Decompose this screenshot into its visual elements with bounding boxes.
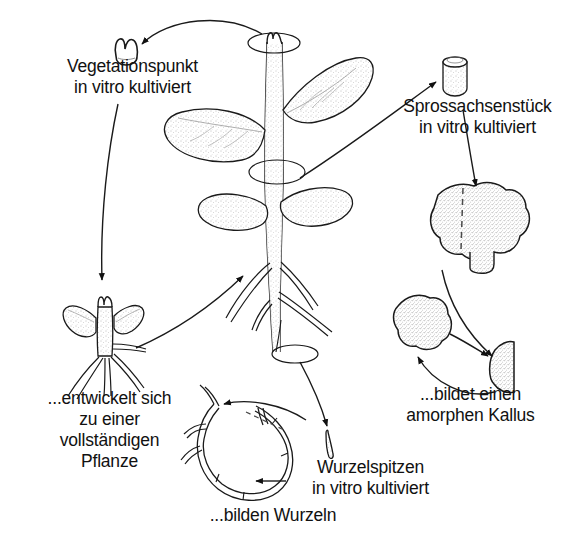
label-wurzeln: ...bilden Wurzeln [178, 505, 368, 526]
regenerated-plantlet [63, 297, 146, 399]
figure-canvas: Vegetationspunktin vitro kultiviert Spro… [0, 0, 575, 546]
label-kallus-line2: amorphen Kallus [406, 405, 534, 425]
label-sprossachsenstueck-line2: in vitro kultiviert [419, 117, 536, 137]
arrow-plantlet-to-plant [136, 276, 243, 348]
label-kallus-line1: ...bildet einen [420, 384, 521, 404]
label-wurzelspitzen-line1: Wurzelspitzen [317, 457, 424, 477]
leaf-lower-left [198, 194, 267, 230]
label-pflanze-line1: ...entwickelt sich [48, 388, 172, 408]
leaf-lower-right [280, 188, 352, 227]
leaf-upper-left [164, 109, 265, 162]
label-pflanze-line4: Pflanze [81, 451, 138, 471]
label-pflanze-line2: zu einer [79, 409, 140, 429]
plant-stem [265, 42, 284, 352]
label-wurzelspitzen: Wurzelspitzenin vitro kultiviert [278, 457, 463, 499]
label-sprossachsenstueck: Sprossachsenstückin vitro kultiviert [385, 96, 570, 138]
label-vegetationspunkt-line2: in vitro kultiviert [74, 77, 191, 97]
callus-large [431, 183, 530, 274]
label-wurzelspitzen-line2: in vitro kultiviert [312, 478, 429, 498]
label-vegetationspunkt: Vegetationspunktin vitro kultiviert [40, 56, 225, 98]
excision-ellipse-root [272, 345, 318, 363]
arrow-roottip-to-explant [300, 362, 327, 426]
label-vegetationspunkt-line1: Vegetationspunkt [67, 56, 198, 76]
explant-stem-cylinder [443, 57, 467, 96]
leaf-upper-right [283, 58, 373, 123]
shoot-apex-tip [267, 33, 282, 44]
label-sprossachsenstueck-line1: Sprossachsenstück [403, 96, 551, 116]
arrow-apexlabel-to-plantlet [102, 104, 118, 280]
arrow-callus2-to-fragment [450, 334, 488, 356]
arrow-apex-to-explant [142, 21, 262, 44]
callus-second [394, 295, 452, 349]
label-pflanze: ...entwickelt sichzu einervollständigenP… [22, 388, 197, 472]
label-wurzeln-line1: ...bilden Wurzeln [210, 505, 337, 525]
label-kallus: ...bildet einenamorphen Kallus [378, 384, 563, 426]
label-pflanze-line3: vollständigen [60, 430, 160, 450]
explant-root-tip [326, 430, 333, 458]
